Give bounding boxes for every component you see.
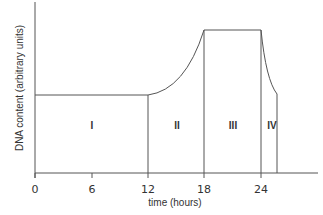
x-tick-label-18: 18 bbox=[197, 183, 211, 196]
x-tick-label-12: 12 bbox=[141, 183, 155, 196]
phase-label-iii: III bbox=[229, 120, 238, 131]
phase-label-ii: II bbox=[174, 120, 180, 131]
x-tick-label-0: 0 bbox=[32, 183, 39, 196]
x-axis-label: time (hours) bbox=[148, 197, 201, 208]
y-axis-label: DNA content (arbitrary units) bbox=[14, 25, 25, 151]
dna-content-chart: I II III IV 0 6 12 18 24 time (hours) DN… bbox=[0, 0, 323, 215]
dna-content-curve bbox=[35, 30, 277, 95]
x-tick-label-6: 6 bbox=[89, 183, 96, 196]
phase-label-iv: IV bbox=[267, 120, 277, 131]
x-tick-label-24: 24 bbox=[254, 183, 268, 196]
phase-label-i: I bbox=[91, 120, 94, 131]
